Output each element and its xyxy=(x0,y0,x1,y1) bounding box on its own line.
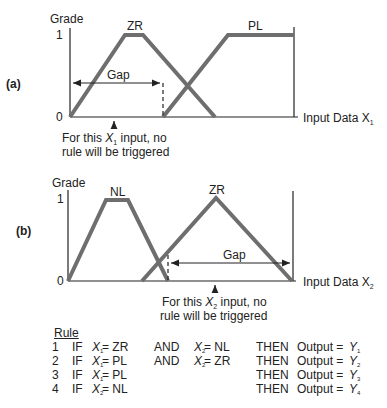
rule-then: THEN xyxy=(256,354,289,368)
rule-c1: = NL xyxy=(102,382,128,396)
panel-a-set-zr-label: ZR xyxy=(127,19,143,33)
rule-out: Output = xyxy=(297,354,343,368)
panel-a: (a) Grade 1 0 ZR PL Gap Input Data X1 Fo… xyxy=(6,12,374,159)
rule-y: Y4 xyxy=(349,382,360,400)
panel-a-gap-label: Gap xyxy=(107,68,130,82)
rule-out: Output = xyxy=(297,382,343,396)
rule-num: 3 xyxy=(52,368,59,382)
rule-c2: = NL xyxy=(204,340,230,354)
rule-num: 1 xyxy=(52,340,59,354)
rule-if: IF xyxy=(72,340,83,354)
panel-b-y-axis-label: Grade xyxy=(52,176,86,190)
rule-num: 2 xyxy=(52,354,59,368)
panel-a-y-axis-label: Grade xyxy=(50,12,84,26)
rule-c1: = PL xyxy=(102,368,127,382)
panel-a-y-tick-0: 0 xyxy=(56,110,63,124)
rule-c1: = PL xyxy=(102,354,127,368)
panel-a-note-line1: For this X1 input, no xyxy=(62,131,167,146)
rule-and: AND xyxy=(154,340,179,354)
panel-a-label: (a) xyxy=(6,77,21,91)
rule-if: IF xyxy=(72,368,83,382)
panel-b-y-tick-0: 0 xyxy=(57,274,64,288)
rule-then: THEN xyxy=(256,382,289,396)
rule-c1: = ZR xyxy=(102,340,128,354)
panel-a-set-pl-label: PL xyxy=(248,19,263,33)
panel-a-set-pl xyxy=(163,35,294,117)
panel-a-y-tick-1: 1 xyxy=(56,28,63,42)
panel-b-label: (b) xyxy=(16,224,31,238)
rule-and: AND xyxy=(154,354,179,368)
panel-a-note-line2: rule will be triggered xyxy=(62,145,169,159)
rule-then: THEN xyxy=(256,340,289,354)
panel-b-gap-label: Gap xyxy=(223,248,246,262)
panel-b-y-tick-1: 1 xyxy=(57,192,64,206)
rule-if: IF xyxy=(72,382,83,396)
panel-b-set-zr-label: ZR xyxy=(209,183,225,197)
panel-b-set-nl-label: NL xyxy=(110,185,126,199)
panel-b-note-line1: For this X2 input, no xyxy=(162,295,267,310)
rule-if: IF xyxy=(72,354,83,368)
rule-then: THEN xyxy=(256,368,289,382)
panel-b-note-line2: rule will be triggered xyxy=(160,309,267,323)
panel-a-x-axis-label: Input Data X1 xyxy=(303,111,374,126)
rule-c2: = ZR xyxy=(204,354,230,368)
rule-out: Output = xyxy=(297,340,343,354)
panel-b-x-axis-label: Input Data X2 xyxy=(303,275,374,290)
panel-b-set-zr xyxy=(142,198,292,281)
rule-table-header: Rule xyxy=(54,326,79,340)
rule-num: 4 xyxy=(52,382,59,396)
panel-b: (b) Grade 1 0 NL ZR Gap Input Data X2 Fo… xyxy=(16,176,374,323)
rule-out: Output = xyxy=(297,368,343,382)
